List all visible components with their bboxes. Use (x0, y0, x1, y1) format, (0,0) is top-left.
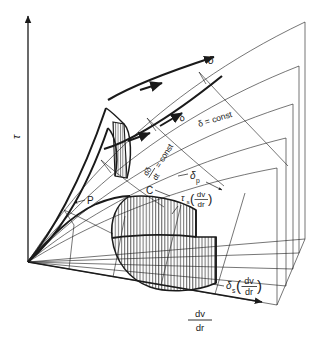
svg-text:): ) (257, 277, 262, 294)
figure-canvas: τ dv dr δ δ δ = const dδ dt = const δ p … (0, 0, 328, 337)
hatched-small-strip (113, 122, 127, 178)
svg-text:δ = const: δ = const (197, 109, 234, 129)
leader-ddelta-dt (178, 174, 188, 176)
svg-text:dr: dr (196, 322, 204, 333)
leader-C (155, 190, 170, 196)
delta-s-function-label: δ s ( dv dr ) (226, 276, 262, 297)
bold-delta-curve-upper-arrowmid (140, 83, 162, 90)
right-plane-droplines (277, 22, 305, 305)
svg-text:dv: dv (244, 276, 254, 286)
delta-label-upper: δ (208, 55, 214, 66)
delta-label-middle: δ (177, 111, 188, 124)
svg-text:P: P (87, 195, 94, 206)
delta-const-label: δ = const (197, 109, 234, 129)
svg-text:dt: dt (151, 171, 162, 182)
svg-text:(: ( (236, 277, 241, 294)
svg-text:C: C (146, 185, 153, 196)
diagram-svg: τ dv dr δ δ δ = const dδ dt = const δ p … (0, 0, 328, 337)
svg-text:dr: dr (197, 200, 204, 209)
svg-text:p: p (196, 177, 200, 185)
svg-text:τ: τ (10, 134, 22, 139)
svg-text:τ: τ (181, 193, 185, 203)
dvdr-axis-label: dv dr (188, 308, 212, 333)
tau-axis-label: τ (10, 134, 22, 139)
delta-p-label: δ p (190, 170, 200, 185)
svg-text:dv: dv (195, 308, 205, 319)
leader-delta-p (206, 182, 222, 190)
hatched-flow-region (112, 196, 216, 291)
ddelta-dt-const-label: dδ dt = const (141, 138, 179, 183)
svg-text:(: ( (190, 191, 195, 206)
point-P-label: P (87, 195, 94, 206)
svg-text:= const: = const (153, 142, 175, 170)
svg-text:δ: δ (177, 111, 188, 124)
svg-text:): ) (208, 191, 212, 206)
point-C-label: C (146, 185, 153, 196)
svg-text:dv: dv (197, 190, 205, 199)
svg-text:dr: dr (245, 287, 253, 297)
svg-text:δ: δ (208, 55, 214, 66)
